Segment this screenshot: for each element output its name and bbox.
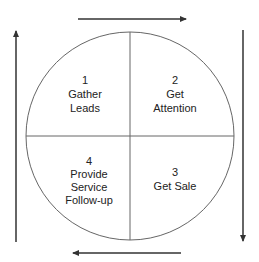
quadrant-3-number: 3 — [172, 166, 178, 178]
quadrant-4-line-3: Follow-up — [65, 194, 113, 206]
quadrant-4-line-1: Provide — [70, 168, 107, 180]
quadrant-3-line-1: Get Sale — [154, 180, 197, 192]
quadrant-4-line-2: Service — [71, 181, 108, 193]
quadrant-2-number: 2 — [172, 74, 178, 86]
quadrant-1-line-1: Gather — [68, 88, 102, 100]
sales-cycle-diagram: 1 Gather Leads 2 Get Attention 3 Get Sal… — [0, 0, 259, 262]
quadrant-1-line-2: Leads — [70, 102, 100, 114]
quadrant-2: 2 Get Attention — [153, 74, 196, 114]
quadrant-4-number: 4 — [86, 155, 92, 167]
quadrant-2-line-1: Get — [166, 88, 184, 100]
quadrant-1: 1 Gather Leads — [68, 74, 102, 114]
quadrant-1-number: 1 — [82, 74, 88, 86]
quadrant-2-line-2: Attention — [153, 102, 196, 114]
quadrant-4: 4 Provide Service Follow-up — [65, 155, 113, 206]
quadrant-3: 3 Get Sale — [154, 166, 197, 192]
